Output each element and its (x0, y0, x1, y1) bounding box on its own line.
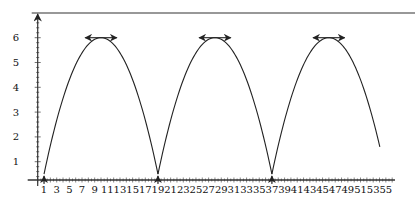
x-tick-label: 37 (266, 184, 279, 195)
y-tick-label: 6 (13, 32, 19, 43)
x-tick-label: 53 (367, 184, 380, 195)
x-tick-label: 27 (202, 184, 215, 195)
y-axis (35, 14, 41, 186)
x-tick-label: 55 (379, 184, 392, 195)
x-axis-labels: 1357911131517192123252729313335373941434… (41, 184, 392, 195)
x-tick-label: 29 (215, 184, 228, 195)
x-tick-label: 41 (291, 184, 304, 195)
x-tick-label: 31 (228, 184, 241, 195)
x-tick-label: 25 (190, 184, 203, 195)
x-tick-label: 33 (240, 184, 253, 195)
y-tick-label: 4 (13, 82, 19, 93)
x-axis (28, 178, 395, 183)
annotations (44, 38, 345, 184)
x-tick-label: 47 (329, 184, 342, 195)
x-tick-label: 39 (278, 184, 291, 195)
x-tick-label: 23 (177, 184, 190, 195)
arc-series (44, 38, 380, 174)
x-tick-label: 19 (152, 184, 165, 195)
x-tick-label: 5 (66, 184, 72, 195)
arc-1 (44, 38, 158, 174)
x-tick-label: 15 (126, 184, 139, 195)
x-tick-label: 9 (91, 184, 97, 195)
x-tick-label: 17 (139, 184, 152, 195)
x-tick-label: 45 (316, 184, 329, 195)
arc-3 (272, 38, 380, 174)
y-axis-labels: 123456 (13, 32, 19, 167)
y-tick-label: 3 (13, 107, 19, 118)
x-tick-label: 49 (342, 184, 355, 195)
y-tick-label: 5 (13, 57, 19, 68)
x-tick-label: 3 (54, 184, 60, 195)
x-tick-label: 13 (114, 184, 127, 195)
y-tick-label: 2 (13, 131, 19, 142)
x-tick-label: 21 (164, 184, 177, 195)
x-tick-label: 43 (304, 184, 317, 195)
x-tick-label: 35 (253, 184, 266, 195)
arc-2 (158, 38, 272, 174)
x-tick-label: 1 (41, 184, 47, 195)
x-tick-label: 11 (101, 184, 114, 195)
periodic-arc-chart: 123456 135791113151719212325272931333537… (0, 0, 415, 205)
x-tick-label: 7 (79, 184, 85, 195)
x-tick-label: 51 (354, 184, 367, 195)
y-tick-label: 1 (13, 156, 19, 167)
